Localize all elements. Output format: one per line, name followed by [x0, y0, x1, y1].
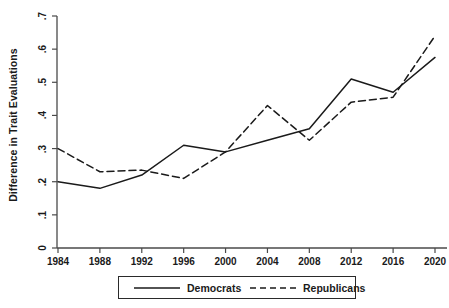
- chart-legend: Democrats Republicans: [118, 276, 356, 299]
- legend-label-democrats: Democrats: [187, 282, 241, 294]
- legend-label-republicans: Republicans: [303, 282, 365, 294]
- y-axis-tick-label: 0: [37, 245, 48, 251]
- y-axis-tick-label: .5: [37, 78, 48, 86]
- x-axis-tick-label: 2008: [298, 256, 320, 267]
- series-line-republicans: [58, 36, 435, 179]
- y-axis-tick-label: .2: [37, 178, 48, 186]
- x-axis-tick-label: 1996: [173, 256, 195, 267]
- x-axis-tick-label: 1992: [131, 256, 153, 267]
- x-axis-tick-label: 2012: [340, 256, 362, 267]
- chart-figure: Difference in Trait Evaluations 0.1.2.3.…: [0, 0, 449, 308]
- x-axis-tick-label: 2000: [214, 256, 236, 267]
- series-line-democrats: [58, 57, 435, 188]
- legend-item-republicans: Republicans: [249, 277, 365, 298]
- y-axis-tick-label: .6: [37, 45, 48, 53]
- x-axis-tick-label: 1988: [89, 256, 111, 267]
- legend-dashed-line-icon: [249, 283, 297, 293]
- legend-solid-line-icon: [133, 283, 181, 293]
- y-axis-tick-label: .7: [37, 12, 48, 20]
- y-axis-tick-label: .4: [37, 111, 48, 119]
- x-axis-tick-label: 2004: [256, 256, 278, 267]
- x-axis-tick-label: 2016: [382, 256, 404, 267]
- y-axis-tick-label: .1: [37, 211, 48, 219]
- x-axis-tick-label: 1984: [47, 256, 69, 267]
- x-axis-tick-label: 2020: [424, 256, 446, 267]
- legend-item-democrats: Democrats: [133, 277, 241, 298]
- y-axis-tick-label: .3: [37, 144, 48, 152]
